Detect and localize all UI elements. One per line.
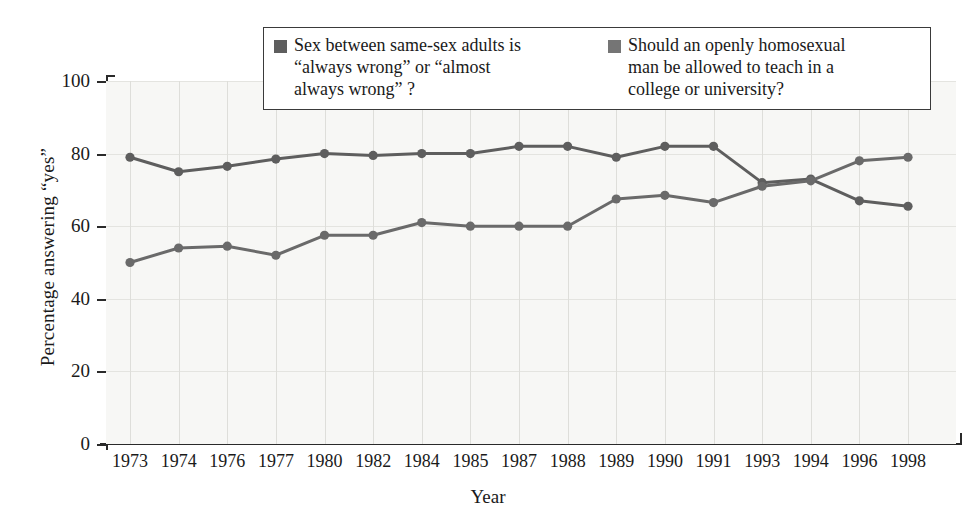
y-tick-label-0: 0 (38, 434, 90, 453)
data-point[interactable] (563, 222, 572, 231)
data-point[interactable] (466, 149, 475, 158)
data-point[interactable] (174, 167, 183, 176)
y-tick-label-40: 40 (38, 289, 90, 308)
data-point[interactable] (709, 142, 718, 151)
x-axis-title: Year (0, 486, 976, 508)
legend-label-1-line3: always wrong” ? (294, 79, 521, 101)
data-point[interactable] (563, 142, 572, 151)
data-point[interactable] (612, 194, 621, 203)
data-point[interactable] (125, 258, 134, 267)
data-point[interactable] (660, 142, 669, 151)
data-point[interactable] (855, 156, 864, 165)
legend-entry-2[interactable]: Should an openly homosexual man be allow… (608, 35, 920, 101)
y-tick-label-100: 100 (38, 71, 90, 90)
data-point[interactable] (709, 198, 718, 207)
data-point[interactable] (320, 231, 329, 240)
data-point[interactable] (855, 196, 864, 205)
y-tick-label-80: 80 (38, 144, 90, 163)
data-point[interactable] (369, 231, 378, 240)
series-line-2 (130, 157, 908, 262)
data-point[interactable] (514, 142, 523, 151)
data-point[interactable] (271, 251, 280, 260)
y-tick-label-20: 20 (38, 361, 90, 380)
x-tick-label-1998: 1998 (873, 452, 943, 470)
data-point[interactable] (806, 176, 815, 185)
legend-label-1-line2: “always wrong” or “almost (294, 57, 521, 79)
data-point[interactable] (369, 151, 378, 160)
legend-label-2: Should an openly homosexual man be allow… (628, 35, 845, 101)
data-point[interactable] (271, 154, 280, 163)
y-axis-top-cap (106, 75, 115, 77)
data-point[interactable] (125, 153, 134, 162)
data-point[interactable] (514, 222, 523, 231)
legend-swatch-icon-1 (274, 40, 287, 53)
legend-label-2-line2: man be allowed to teach in a (628, 57, 845, 79)
y-axis-title: Percentage answering “yes” (37, 57, 59, 457)
data-point[interactable] (466, 222, 475, 231)
data-point[interactable] (612, 153, 621, 162)
series-line-1 (130, 146, 908, 206)
legend-label-1-line1: Sex between same-sex adults is (294, 35, 521, 57)
data-point[interactable] (903, 202, 912, 211)
legend-label-2-line1: Should an openly homosexual (628, 35, 845, 57)
data-point[interactable] (417, 149, 426, 158)
x-axis-right-cap (960, 433, 962, 445)
data-point[interactable] (223, 162, 232, 171)
legend-entry-1[interactable]: Sex between same-sex adults is “always w… (274, 35, 586, 101)
chart-figure: Percentage answering “yes” 020406080100 … (0, 0, 976, 529)
data-point[interactable] (417, 218, 426, 227)
y-tick-label-60: 60 (38, 216, 90, 235)
data-point[interactable] (223, 242, 232, 251)
series-layer (106, 81, 956, 444)
data-point[interactable] (758, 182, 767, 191)
legend-swatch-icon-2 (608, 40, 621, 53)
data-point[interactable] (174, 243, 183, 252)
plot-area (106, 81, 956, 444)
chart-legend: Sex between same-sex adults is “always w… (263, 27, 931, 110)
data-point[interactable] (660, 191, 669, 200)
legend-label-1: Sex between same-sex adults is “always w… (294, 35, 521, 101)
legend-label-2-line3: college or university? (628, 79, 845, 101)
data-point[interactable] (903, 153, 912, 162)
data-point[interactable] (320, 149, 329, 158)
